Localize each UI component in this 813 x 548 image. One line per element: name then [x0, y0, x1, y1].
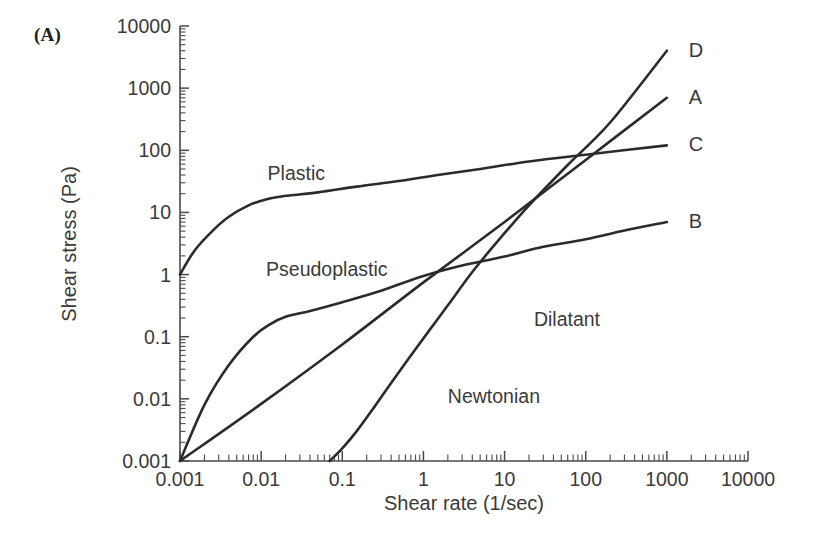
- curve-a: [180, 98, 667, 461]
- curve-group: [180, 51, 667, 461]
- x-axis-ticks: [180, 451, 748, 461]
- x-tick-label: 0.001: [156, 468, 205, 490]
- curve-c: [180, 145, 667, 274]
- y-tick-label: 0.01: [133, 388, 171, 410]
- figure-panel-a: (A) 0.0010.010.1110100100010000 0.0010.0…: [0, 0, 813, 548]
- y-tick-label: 1: [160, 264, 171, 286]
- series-end-label-b: B: [689, 210, 702, 232]
- y-axis-title: Shear stress (Pa): [58, 166, 80, 322]
- curve-label-pseudoplastic: Pseudoplastic: [266, 258, 388, 280]
- inline-curve-labels: NewtonianPseudoplasticPlasticDilatant: [266, 162, 601, 407]
- curve-label-dilatant: Dilatant: [534, 308, 601, 330]
- x-axis-title: Shear rate (1/sec): [384, 492, 544, 514]
- x-tick-label: 10: [494, 468, 516, 490]
- x-tick-label: 1000: [645, 468, 689, 490]
- series-end-label-d: D: [689, 39, 703, 61]
- x-tick-label: 0.1: [329, 468, 356, 490]
- panel-label: (A): [34, 24, 61, 46]
- y-tick-label: 0.1: [144, 326, 171, 348]
- x-tick-label: 0.01: [242, 468, 280, 490]
- curve-label-plastic: Plastic: [268, 162, 326, 184]
- x-tick-label: 1: [418, 468, 429, 490]
- y-tick-label: 10: [149, 201, 171, 223]
- curve-label-newtonian: Newtonian: [448, 385, 540, 407]
- series-end-label-a: A: [689, 86, 703, 108]
- x-axis-tick-labels: 0.0010.010.1110100100010000: [156, 468, 776, 490]
- y-axis-ticks: [180, 26, 189, 461]
- series-end-label-c: C: [689, 133, 703, 155]
- series-end-labels: ABCD: [689, 39, 703, 232]
- y-tick-label: 100: [138, 139, 171, 161]
- shear-stress-vs-shear-rate-chart: 0.0010.010.1110100100010000 0.0010.010.1…: [0, 0, 813, 548]
- curve-b: [180, 222, 667, 461]
- y-tick-label: 1000: [128, 77, 172, 99]
- x-tick-label: 100: [569, 468, 602, 490]
- y-axis-tick-labels: 0.0010.010.1110100100010000: [117, 15, 171, 472]
- y-tick-label: 10000: [117, 15, 171, 37]
- x-tick-label: 10000: [721, 468, 775, 490]
